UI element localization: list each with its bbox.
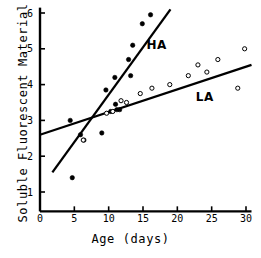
data-point-la bbox=[111, 109, 115, 113]
data-point-ha bbox=[100, 131, 104, 135]
x-axis-tick-label: 10 bbox=[103, 213, 115, 224]
data-point-ha bbox=[113, 75, 117, 79]
data-point-la bbox=[196, 63, 200, 67]
tick-labels-group: 123456051015202530 bbox=[27, 8, 252, 225]
data-point-ha bbox=[148, 13, 152, 17]
regression-line-la bbox=[40, 65, 251, 135]
chart-figure: 123456051015202530 HALA Soluble Fluoresc… bbox=[0, 0, 261, 258]
data-point-la bbox=[205, 70, 209, 74]
data-point-ha bbox=[117, 107, 121, 111]
x-axis-tick-label: 25 bbox=[206, 213, 218, 224]
data-point-la bbox=[168, 83, 172, 87]
x-axis-label: Age (days) bbox=[0, 232, 261, 246]
series-label-la: LA bbox=[196, 90, 214, 104]
data-point-la bbox=[124, 100, 128, 104]
x-axis-tick-label: 5 bbox=[71, 213, 77, 224]
y-axis-label: Soluble Fluorescent Material bbox=[16, 3, 30, 223]
data-point-ha bbox=[128, 73, 132, 77]
data-point-ha bbox=[113, 102, 117, 106]
data-point-la bbox=[150, 86, 154, 90]
series-annotations-group: HALA bbox=[147, 38, 214, 104]
x-axis-tick-label: 15 bbox=[137, 213, 149, 224]
data-point-la bbox=[138, 91, 142, 95]
data-point-la bbox=[243, 47, 247, 51]
series-label-ha: HA bbox=[147, 38, 168, 52]
data-point-la bbox=[236, 86, 240, 90]
data-point-la bbox=[186, 74, 190, 78]
data-point-la bbox=[81, 138, 85, 142]
data-point-ha bbox=[131, 43, 135, 47]
data-point-la bbox=[216, 57, 220, 61]
data-point-la bbox=[119, 99, 123, 103]
data-point-ha bbox=[126, 57, 130, 61]
data-point-ha bbox=[70, 175, 74, 179]
regression-lines-group bbox=[40, 9, 251, 172]
data-point-la bbox=[105, 111, 109, 115]
x-axis-tick-label: 30 bbox=[240, 213, 252, 224]
data-point-ha bbox=[78, 133, 82, 137]
data-point-ha bbox=[140, 22, 144, 26]
regression-line-ha bbox=[52, 9, 170, 172]
data-point-ha bbox=[104, 88, 108, 92]
scatter-plot-canvas: 123456051015202530 HALA bbox=[0, 0, 261, 258]
x-axis-tick-label: 20 bbox=[171, 213, 183, 224]
data-point-ha bbox=[68, 118, 72, 122]
x-axis-tick-label: 0 bbox=[37, 213, 43, 224]
